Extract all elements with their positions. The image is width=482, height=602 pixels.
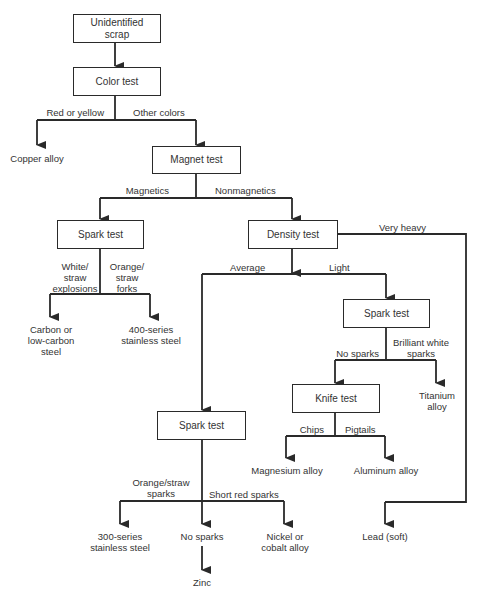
result-magnesium-alloy: Magnesium alloy [251, 465, 322, 476]
result-nickel-cobalt-alloy: Nickel or cobalt alloy [261, 531, 309, 553]
edge-label-red-or-yellow: Red or yellow [46, 107, 104, 118]
result-copper-alloy: Copper alloy [10, 153, 63, 164]
node-unidentified-scrap: Unidentified scrap [73, 14, 161, 43]
node-spark-test-magnetic: Spark test [57, 220, 144, 249]
edge-label-chips: Chips [300, 424, 324, 435]
result-400-series-stainless: 400-series stainless steel [121, 324, 181, 346]
node-spark-test-light: Spark test [343, 299, 430, 328]
edge-label-no-sparks: No sparks [336, 348, 379, 359]
result-titanium-alloy: Titanium alloy [419, 390, 455, 412]
edge-label-other-colors: Other colors [133, 107, 185, 118]
edge-label-orange-straw-forks: Orange/ straw forks [110, 261, 144, 294]
result-aluminum-alloy: Aluminum alloy [354, 465, 418, 476]
result-lead-soft: Lead (soft) [362, 531, 407, 542]
edge-label-orange-straw-sparks: Orange/straw sparks [132, 477, 189, 499]
edge-label-very-heavy: Very heavy [379, 222, 426, 233]
node-density-test: Density test [248, 220, 338, 249]
edge-label-nonmagnetics: Nonmagnetics [215, 185, 276, 196]
node-color-test: Color test [73, 67, 161, 96]
result-zinc: Zinc [193, 577, 211, 588]
edge-label-pigtails: Pigtails [345, 424, 376, 435]
edge-label-light: Light [329, 262, 350, 273]
result-no-sparks: No sparks [181, 531, 224, 542]
node-magnet-test: Magnet test [152, 146, 241, 174]
edge-label-white-straw-explosions: White/ straw explosions [53, 261, 98, 294]
edge-label-average: Average [230, 262, 265, 273]
edge-label-magnetics: Magnetics [126, 185, 169, 196]
edge-label-brilliant-white-sparks: Brilliant white sparks [393, 337, 449, 359]
edge-label-short-red-sparks: Short red sparks [209, 489, 279, 500]
result-300-series-stainless: 300-series stainless steel [90, 531, 150, 553]
node-knife-test: Knife test [292, 384, 380, 413]
node-spark-test-average: Spark test [157, 411, 246, 440]
result-carbon-steel: Carbon or low-carbon steel [28, 324, 74, 357]
